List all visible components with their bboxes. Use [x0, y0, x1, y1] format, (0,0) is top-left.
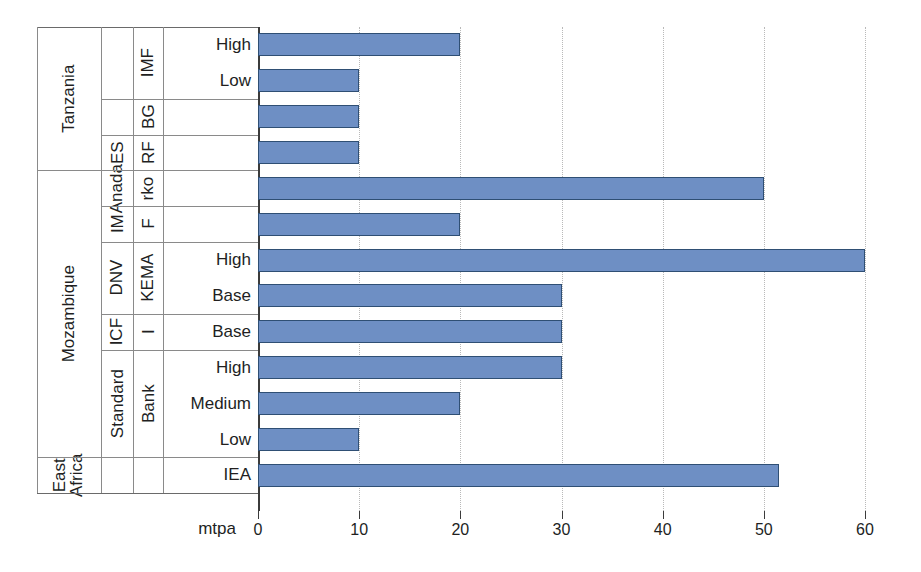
- bar: [258, 320, 562, 343]
- table-rule-horizontal: [101, 99, 258, 100]
- scenario-cell-tanzania-imf-high: High: [163, 27, 258, 63]
- source-label-rf: RF: [139, 141, 156, 164]
- scenario-cell-dnvkema-high: High: [163, 242, 258, 278]
- source-cell-rf: RF: [133, 135, 163, 171]
- scenario-cell-tanzania-imf-low: Low: [163, 63, 258, 99]
- source-label-kema: KEMA: [139, 254, 156, 302]
- source-cell-icf: ICF: [101, 314, 133, 350]
- country-label-tanzania: Tanzania: [60, 65, 77, 133]
- source-column-outer: ES Anada IM DNV ICF Standard: [101, 27, 133, 493]
- table-border-left: [37, 27, 38, 493]
- source-label-icf: ICF: [108, 318, 125, 345]
- source-cell-dnv: DNV: [101, 242, 133, 314]
- bar: [258, 213, 460, 236]
- source-cell-bg: BG: [133, 99, 163, 135]
- source-cell-kema: KEMA: [133, 242, 163, 314]
- source-label-es: ES: [108, 141, 125, 164]
- scenario-cell-iea: IEA: [163, 457, 258, 493]
- source-cell-anadarko-part1: Anada: [101, 170, 133, 206]
- x-axis-tick: [258, 511, 259, 519]
- country-label-mozambique: Mozambique: [60, 265, 77, 362]
- bar: [258, 141, 359, 164]
- bar-chart-figure: Tanzania Mozambique East Africa ES Anad: [0, 0, 921, 572]
- source-cell-anadarko-part2: rko: [133, 170, 163, 206]
- source-cell-imf-part2: F: [133, 206, 163, 242]
- x-axis-tick: [460, 511, 461, 519]
- source-column-inner: IMF BG RF rko F KEMA I Bank: [133, 27, 163, 493]
- source-cell-imf-tanzania: IMF: [133, 27, 163, 99]
- bar: [258, 428, 359, 451]
- source-label-im: IM: [108, 215, 125, 234]
- source-cell-imf-part1: IM: [101, 206, 133, 242]
- table-rule-horizontal: [101, 135, 258, 136]
- table-rule-horizontal: [101, 350, 258, 351]
- source-label-imf: IMF: [139, 48, 156, 77]
- x-axis-tick: [865, 511, 866, 519]
- scenario-cell-stdbank-high: High: [163, 350, 258, 386]
- source-label-i: I: [139, 329, 156, 334]
- table-rule-horizontal: [101, 314, 258, 315]
- source-label-f: F: [139, 219, 156, 229]
- x-axis-tick: [764, 511, 765, 519]
- source-cell-bank: Bank: [133, 350, 163, 458]
- bar: [258, 177, 764, 200]
- x-axis-tick-label: 30: [553, 521, 571, 539]
- x-axis-tick-label: 10: [350, 521, 368, 539]
- x-axis-tick: [663, 511, 664, 519]
- table-rule-vertical: [101, 27, 102, 493]
- source-cell-standard: Standard: [101, 350, 133, 458]
- table-border-top: [37, 27, 258, 28]
- table-rule-horizontal: [37, 457, 258, 458]
- x-axis-tick: [562, 511, 563, 519]
- table-rule-horizontal: [37, 170, 258, 171]
- bar: [258, 33, 460, 56]
- source-cell-icf-i: I: [133, 314, 163, 350]
- source-label-bg: BG: [139, 104, 156, 129]
- source-label-dnv: DNV: [108, 260, 125, 296]
- source-label-standard: Standard: [108, 369, 125, 438]
- bar: [258, 284, 562, 307]
- table-rule-horizontal: [101, 242, 258, 243]
- country-label-east-africa: East Africa: [52, 453, 87, 496]
- x-axis-tick-label: 40: [654, 521, 672, 539]
- country-label-east-africa-line2: Africa: [68, 453, 87, 496]
- x-axis-tick-label: 60: [856, 521, 874, 539]
- country-column: Tanzania Mozambique East Africa: [37, 27, 101, 493]
- chart-body: Tanzania Mozambique East Africa ES Anad: [37, 27, 882, 520]
- x-axis-tick-label: 20: [451, 521, 469, 539]
- x-axis-tick-label: 50: [755, 521, 773, 539]
- country-cell-mozambique: Mozambique: [37, 170, 101, 457]
- x-axis-unit-label: mtpa: [198, 519, 236, 539]
- scenario-cell-dnvkema-base: Base: [163, 278, 258, 314]
- bar: [258, 69, 359, 92]
- scenario-cell-icfi-base: Base: [163, 314, 258, 350]
- x-axis-tick: [359, 511, 360, 519]
- scenario-column: High Low High Base Base High Medium Low …: [163, 27, 258, 493]
- table-rule-vertical: [163, 27, 164, 493]
- gridline: [865, 27, 866, 511]
- table-border-bottom: [37, 493, 258, 494]
- bar: [258, 356, 562, 379]
- country-cell-east-africa: East Africa: [37, 457, 101, 493]
- bar: [258, 105, 359, 128]
- table-rule-vertical: [133, 27, 134, 493]
- row-label-table: Tanzania Mozambique East Africa ES Anad: [37, 27, 258, 493]
- x-axis-tick-label: 0: [254, 521, 263, 539]
- table-rule-horizontal: [101, 206, 258, 207]
- plot-area: [258, 27, 882, 493]
- source-label-bank: Bank: [139, 384, 156, 423]
- bar: [258, 464, 779, 487]
- bar: [258, 249, 865, 272]
- country-cell-tanzania: Tanzania: [37, 27, 101, 170]
- scenario-cell-stdbank-low: Low: [163, 421, 258, 457]
- bar: [258, 392, 460, 415]
- scenario-cell-stdbank-medium: Medium: [163, 385, 258, 421]
- source-label-rko: rko: [139, 176, 156, 200]
